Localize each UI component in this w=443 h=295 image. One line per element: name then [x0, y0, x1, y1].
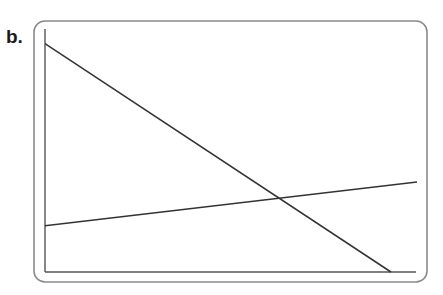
- series-layer: [45, 44, 417, 272]
- series-line-2: [45, 182, 417, 226]
- chart-frame: [34, 21, 427, 282]
- line-chart: [0, 0, 443, 295]
- series-line-1: [45, 44, 391, 272]
